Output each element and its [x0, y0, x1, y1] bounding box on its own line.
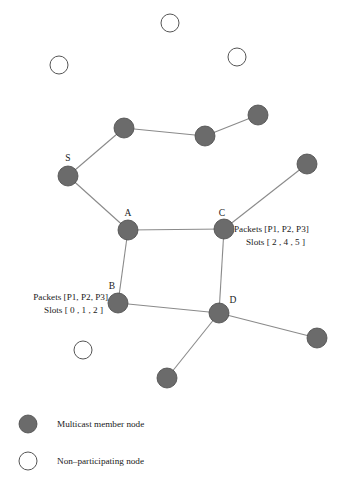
- legend: Multicast member nodeNon–participating n…: [19, 415, 144, 470]
- network-diagram-figure: SACBD Packets [P1, P2, P3]Slots [ 2 , 4 …: [0, 0, 341, 489]
- multicast-node: [157, 368, 177, 388]
- edge-S-A: [68, 176, 128, 230]
- edge-S-n1: [68, 128, 124, 176]
- multicast-node: [307, 328, 327, 348]
- multicast-node-B: [108, 293, 128, 313]
- node-label-C: C: [219, 208, 225, 218]
- multicast-node-A: [118, 220, 138, 240]
- annot-b-line-1: Packets [P1, P2, P3]: [33, 292, 108, 302]
- node-label-D: D: [230, 295, 237, 305]
- node-label-S: S: [65, 153, 70, 163]
- graph-canvas: SACBD Packets [P1, P2, P3]Slots [ 2 , 4 …: [0, 0, 341, 489]
- nonparticipating-node: [161, 14, 179, 32]
- nonparticipating-node: [228, 48, 246, 66]
- annot-c-line-1: Packets [P1, P2, P3]: [234, 224, 309, 234]
- edge-D-n6: [167, 313, 219, 378]
- multicast-node: [195, 126, 215, 146]
- multicast-node: [114, 118, 134, 138]
- node-label-B: B: [109, 281, 115, 291]
- multicast-node: [297, 154, 317, 174]
- edge-B-D: [118, 303, 219, 313]
- edge-A-C: [128, 229, 224, 230]
- edge-A-B: [118, 230, 128, 303]
- legend-nonmember-label: Non–participating node: [57, 456, 144, 466]
- edge-n1-n2: [124, 128, 205, 136]
- edge-C-n4: [224, 164, 307, 229]
- nonparticipating-node: [50, 56, 68, 74]
- multicast-node: [248, 105, 268, 125]
- legend-nonmember-marker-icon: [19, 452, 37, 470]
- legend-member-marker-icon: [19, 415, 37, 433]
- legend-member-label: Multicast member node: [57, 419, 144, 429]
- node-label-A: A: [125, 208, 132, 218]
- annot-c-line-2: Slots [ 2 , 4 , 5 ]: [246, 237, 305, 247]
- nonparticipating-node: [74, 341, 92, 359]
- multicast-node-C: [214, 219, 234, 239]
- annot-b-line-2: Slots [ 0 , 1 , 2 ]: [44, 305, 103, 315]
- annotations-layer: Packets [P1, P2, P3]Slots [ 2 , 4 , 5 ]P…: [33, 224, 309, 315]
- multicast-node-D: [209, 303, 229, 323]
- edge-D-n5: [219, 313, 317, 338]
- edge-C-D: [219, 229, 224, 313]
- multicast-node-S: [58, 166, 78, 186]
